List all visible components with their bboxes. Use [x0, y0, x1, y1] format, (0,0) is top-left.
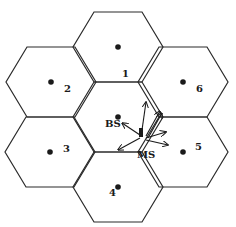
- cell-label-2: 2: [64, 83, 71, 94]
- cell-center-dot-5: [180, 149, 186, 155]
- arrow-right-2: [146, 140, 168, 145]
- cell-label-6: 6: [196, 83, 203, 94]
- cell-label-3: 3: [63, 143, 70, 154]
- cell-center-dot-4: [115, 184, 121, 190]
- arrow-to-bs: [122, 123, 140, 135]
- cell-center-dot-3: [47, 149, 53, 155]
- cell-diagram: 123456 BS MS: [0, 0, 236, 227]
- cell-label-4: 4: [109, 187, 116, 198]
- arrow-up: [142, 102, 146, 130]
- cell-center-dot-6: [180, 79, 186, 85]
- ms-label: MS: [137, 149, 155, 160]
- bs-label: BS: [105, 118, 121, 129]
- mobile-station-icon: [139, 128, 143, 137]
- arrow-up-right-1: [146, 111, 160, 136]
- cell-center-dot-2: [48, 79, 54, 85]
- cell-center-dot-1: [115, 44, 121, 50]
- cell-label-5: 5: [195, 141, 202, 152]
- cell-label-1: 1: [122, 68, 129, 79]
